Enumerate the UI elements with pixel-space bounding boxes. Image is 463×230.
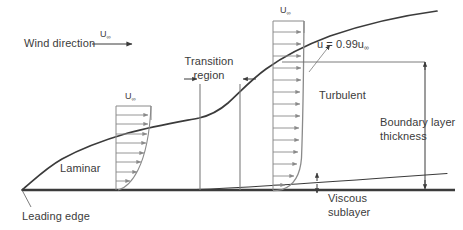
- wind-speed-subscript: ∞: [107, 34, 111, 40]
- diagram-canvas: [0, 0, 463, 230]
- laminar-u-subscript: ∞: [132, 96, 136, 102]
- edge-definition-subscript: ∞: [364, 44, 369, 51]
- turbulent-u-subscript: ∞: [287, 10, 291, 16]
- wind-direction-label: Wind direction: [24, 37, 95, 50]
- boundary-layer-thickness-label-line1: Boundary layer: [380, 116, 455, 129]
- turbulent-region-label: Turbulent: [319, 89, 366, 102]
- turbulent-profile-u-label: U∞: [280, 4, 291, 20]
- boundary-layer-thickness-label-line2: thickness: [380, 130, 427, 143]
- edge-definition-text: u = 0.99u: [317, 38, 364, 50]
- transition-region-bounds: [184, 79, 256, 190]
- transition-region-label-line2: region: [163, 69, 255, 82]
- turbulent-velocity-profile: [273, 21, 304, 191]
- viscous-sublayer-label-line2: sublayer: [328, 206, 370, 219]
- laminar-u-symbol: U: [125, 91, 132, 101]
- leading-edge-label: Leading edge: [22, 210, 90, 223]
- viscous-sublayer-curve: [196, 174, 447, 190]
- viscous-sublayer-label-line1: Viscous: [328, 192, 367, 205]
- wind-speed-u: U: [100, 29, 107, 39]
- laminar-profile-u-label: U∞: [125, 90, 136, 106]
- wind-speed-symbol: U∞: [100, 28, 111, 44]
- turbulent-u-symbol: U: [280, 5, 287, 15]
- transition-region-label-line1: Transition: [163, 55, 255, 68]
- boundary-layer-diagram: Wind direction U∞ Transition region U∞ U…: [0, 0, 463, 230]
- laminar-region-label: Laminar: [60, 162, 100, 175]
- leading-edge-leader: [22, 190, 31, 207]
- edge-definition-label: u = 0.99u∞: [317, 38, 369, 54]
- laminar-velocity-profile: [116, 106, 151, 190]
